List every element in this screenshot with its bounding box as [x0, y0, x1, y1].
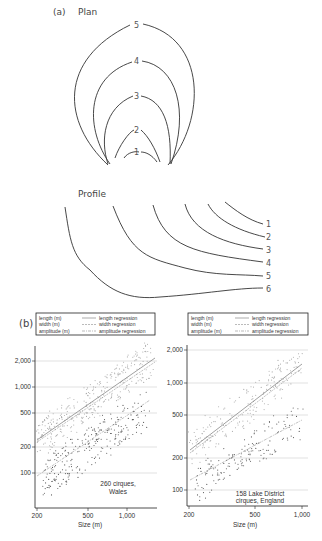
annotation-line2: Wales	[109, 488, 128, 495]
y-tick-200: 200	[20, 443, 31, 450]
legend-right-amplitude: amplitude (m)	[191, 328, 222, 334]
figure-canvas: 1 2 3 4 5 1 2 3 4 5 6 length (m) width (…	[0, 0, 322, 541]
legend-right-length-reg: length regression	[252, 315, 291, 321]
legend-left-amplitude-reg: amplitude regression	[99, 328, 146, 334]
x-tick-200-r: 200	[184, 511, 195, 518]
scatter-points-wales	[35, 342, 154, 495]
annotation-line1: 260 cirques,	[100, 480, 136, 488]
legend-right: length (m) width (m) amplitude (m) lengt…	[188, 313, 308, 335]
y-tick-100: 100	[20, 469, 31, 476]
plan-label-5: 5	[134, 21, 139, 30]
y-tick-100-r: 100	[172, 486, 183, 493]
y-tick-2000-r: 2,000	[167, 346, 184, 353]
x-tick-500-r: 500	[250, 511, 261, 518]
plan-label-3: 3	[134, 92, 139, 101]
profile-label-6: 6	[266, 285, 271, 294]
y-tick-500-r: 500	[172, 411, 183, 418]
chart-wales: 2,000 1,000 500 200 100 200 500 1,000 Si…	[15, 342, 157, 529]
plan-number-labels: 1 2 3 4 5	[134, 21, 139, 157]
legend-left-width: width (m)	[39, 321, 60, 327]
y-tick-500: 500	[20, 409, 31, 416]
y-tick-1000: 1,000	[15, 383, 32, 390]
legend-left-length: length (m)	[39, 315, 62, 321]
plan-label-4: 4	[134, 57, 139, 66]
y-tick-1000-r: 1,000	[167, 379, 184, 386]
legend-left: length (m) width (m) amplitude (m) lengt…	[36, 313, 155, 335]
profile-label-3: 3	[266, 246, 271, 255]
x-tick-1000-r: 1,000	[294, 511, 311, 518]
profile-label-5: 5	[266, 272, 271, 281]
legend-right-width-reg: width regression	[252, 321, 289, 327]
y-tick-200-r: 200	[172, 454, 183, 461]
x-tick-500: 500	[83, 512, 94, 519]
annotation-line2-r: cirques, England	[236, 497, 285, 505]
y-tick-2000: 2,000	[15, 357, 32, 364]
legend-left-length-reg: length regression	[99, 315, 138, 321]
scatter-points-lake-district	[188, 353, 304, 501]
profile-label-4: 4	[266, 259, 271, 268]
annotation-line1-r: 158 Lake District	[236, 490, 285, 497]
legend-left-width-reg: width regression	[99, 321, 136, 327]
x-axis-label: Size (m)	[78, 521, 102, 529]
x-axis-label-r: Size (m)	[233, 521, 257, 529]
plan-label-2: 2	[134, 126, 139, 135]
legend-left-amplitude: amplitude (m)	[39, 328, 70, 334]
plan-label-1: 1	[134, 148, 139, 157]
chart-lake-district: 2,000 1,000 500 200 100 200 500 1,000 Si…	[167, 345, 311, 529]
legend-right-length: length (m)	[191, 315, 214, 321]
profile-number-labels: 1 2 3 4 5 6	[266, 220, 271, 294]
legend-right-amplitude-reg: amplitude regression	[252, 328, 299, 334]
legend-right-width: width (m)	[191, 321, 212, 327]
profile-diagram	[65, 202, 265, 298]
profile-label-2: 2	[266, 233, 271, 242]
profile-label-1: 1	[266, 220, 271, 229]
x-tick-1000: 1,000	[119, 512, 136, 519]
x-tick-200: 200	[32, 512, 43, 519]
